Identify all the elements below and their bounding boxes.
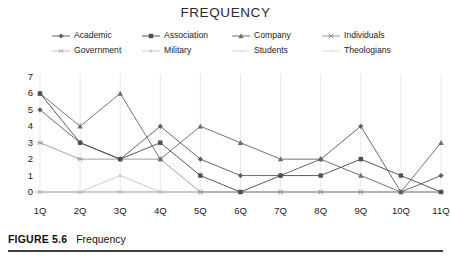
triangle-marker-icon [232, 31, 250, 41]
x-tick-label: 8Q [314, 206, 327, 216]
data-point-square [149, 33, 153, 37]
caption-divider [8, 250, 443, 252]
legend-label: Government [74, 45, 121, 56]
legend-label: Individuals [344, 30, 385, 41]
legend-item-association[interactable]: Association [142, 30, 232, 41]
data-point-diamond [58, 33, 63, 38]
legend-item-military[interactable]: Military [142, 45, 232, 56]
legend-item-students[interactable]: Students [232, 45, 322, 56]
x-tick-label: 2Q [74, 206, 87, 216]
legend-label: Military [164, 45, 191, 56]
chart-title: FREQUENCY [0, 5, 451, 20]
legend-item-theologians[interactable]: Theologians [322, 45, 412, 56]
data-point-square [238, 190, 242, 194]
data-point-square [319, 173, 323, 177]
data-point-triangle [118, 91, 123, 96]
cross-marker-icon [52, 46, 70, 56]
plot-area: 01234567 [0, 72, 451, 204]
figure-caption: FIGURE 5.6 Frequency [8, 233, 443, 245]
data-point-square [118, 157, 122, 161]
data-point-cross [328, 33, 334, 37]
legend-label: Academic [74, 30, 112, 41]
data-point-triangle [438, 140, 443, 145]
x-tick-label: 3Q [114, 206, 127, 216]
data-point-cross [58, 48, 64, 52]
diamond-marker-icon [52, 31, 70, 41]
figure-caption-text: Frequency [76, 233, 126, 245]
data-point-dot [119, 174, 122, 177]
legend-label: Students [254, 45, 288, 56]
legend-label: Company [254, 30, 291, 41]
x-axis: 1Q2Q3Q4Q5Q6Q7Q8Q9Q10Q11Q [0, 206, 451, 220]
dotline-marker-icon [322, 46, 340, 56]
dot-marker-icon [142, 46, 160, 56]
legend-item-individuals[interactable]: Individuals [322, 30, 412, 41]
data-point-square [38, 91, 42, 95]
data-point-square [158, 141, 162, 145]
data-point-square [278, 173, 282, 177]
data-point-square [399, 173, 403, 177]
line-marker-icon [232, 46, 250, 56]
data-point-square [78, 141, 82, 145]
cross-marker-icon [322, 31, 340, 41]
data-point-square [439, 190, 443, 194]
x-tick-label: 4Q [154, 206, 167, 216]
figure-number: FIGURE 5.6 [8, 233, 67, 245]
data-point-triangle [198, 123, 203, 128]
square-marker-icon [142, 31, 160, 41]
chart-canvas [0, 72, 451, 204]
data-point-square [198, 173, 202, 177]
x-tick-label: 1Q [34, 206, 47, 216]
data-point-dot [150, 49, 153, 52]
x-tick-label: 11Q [432, 206, 449, 216]
legend-item-government[interactable]: Government [52, 45, 142, 56]
legend-label: Association [164, 30, 208, 41]
x-tick-label: 10Q [392, 206, 410, 216]
legend-label: Theologians [344, 45, 391, 56]
x-tick-label: 5Q [194, 206, 207, 216]
data-point-dotline [330, 50, 332, 52]
data-point-square [359, 157, 363, 161]
x-tick-label: 9Q [354, 206, 367, 216]
figure-container: FREQUENCY AcademicAssociationCompanyIndi… [0, 0, 451, 267]
legend-item-company[interactable]: Company [232, 30, 322, 41]
x-tick-label: 6Q [234, 206, 247, 216]
data-point-diamond [438, 173, 443, 178]
x-tick-label: 7Q [274, 206, 287, 216]
data-point-diamond [238, 173, 243, 178]
legend-item-academic[interactable]: Academic [52, 30, 142, 41]
chart-legend: AcademicAssociationCompanyIndividualsGov… [52, 30, 412, 56]
